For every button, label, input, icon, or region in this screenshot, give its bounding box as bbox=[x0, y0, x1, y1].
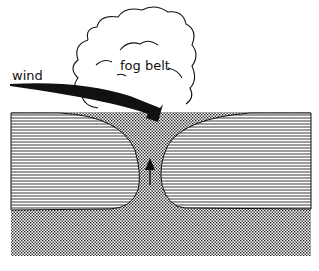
fog-belt-label: fog belt bbox=[120, 58, 170, 73]
wind-label: wind bbox=[12, 68, 43, 83]
fog-belt-diagram: fog belt wind bbox=[0, 0, 319, 271]
